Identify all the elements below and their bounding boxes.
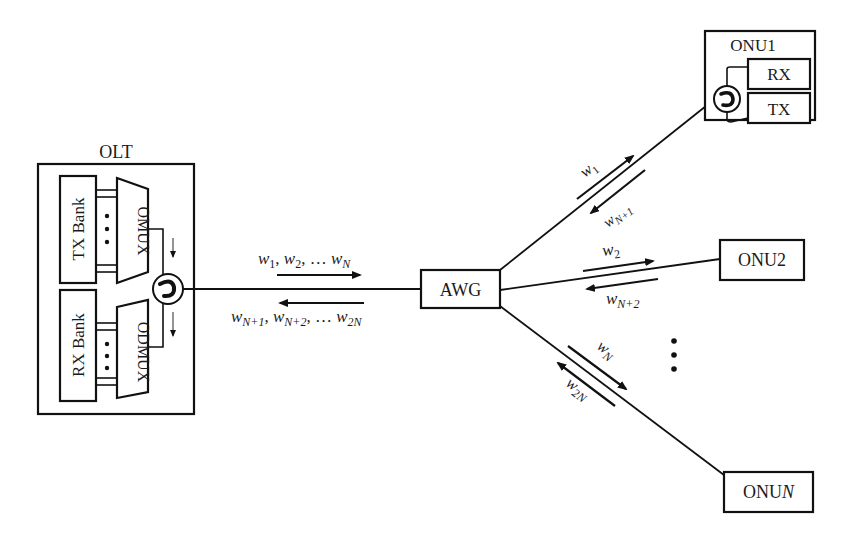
onu2-label: ONU2 bbox=[738, 250, 786, 270]
more-onus-ellipsis bbox=[671, 338, 677, 372]
omux: OMUX bbox=[117, 178, 152, 283]
omux-label: OMUX bbox=[135, 207, 152, 256]
tx-bank: TX Bank bbox=[60, 176, 96, 283]
onu2-upstream-label: wN+2 bbox=[606, 289, 639, 311]
wdm-pon-diagram: OLT TX Bank OMUX RX Bank bbox=[0, 0, 856, 548]
olt-circulator-icon bbox=[153, 274, 183, 304]
onu1-block: ONU1 RX TX bbox=[705, 31, 815, 123]
onun-block: ONUN bbox=[724, 472, 813, 512]
rx-bank-label: RX Bank bbox=[69, 313, 88, 377]
onun-upstream-label: w2N bbox=[561, 374, 594, 406]
onu2-block: ONU2 bbox=[720, 240, 804, 280]
onu1-downstream-label: w1 bbox=[576, 157, 601, 183]
olt-title: OLT bbox=[99, 142, 132, 162]
awg-block: AWG bbox=[421, 270, 500, 308]
rx-bank: RX Bank bbox=[60, 290, 96, 401]
tx-bank-label: TX Bank bbox=[69, 197, 88, 260]
onun-downstream-label: wN bbox=[592, 337, 620, 366]
onu1-label: ONU1 bbox=[730, 36, 775, 55]
odmux: ODMUX bbox=[117, 300, 152, 398]
onu1-rx-label: RX bbox=[767, 65, 791, 84]
feeder-downstream-label: w1, w2, … wN bbox=[258, 249, 351, 271]
branch-fiber-onun bbox=[500, 306, 724, 475]
feeder-upstream-label: wN+1, wN+2, … w2N bbox=[231, 307, 363, 329]
onu1-tx-label: TX bbox=[768, 100, 791, 119]
onu2-downstream-label: w2 bbox=[601, 239, 621, 263]
onun-label: ONUN bbox=[743, 482, 795, 502]
odmux-label: ODMUX bbox=[135, 322, 152, 383]
awg-label: AWG bbox=[440, 280, 482, 300]
onu1-upstream-label: wN+1 bbox=[600, 199, 636, 233]
olt-block: OLT TX Bank OMUX RX Bank bbox=[38, 142, 194, 414]
onu1-circulator-icon bbox=[714, 86, 740, 112]
onu2-upstream-arrow bbox=[587, 279, 658, 289]
